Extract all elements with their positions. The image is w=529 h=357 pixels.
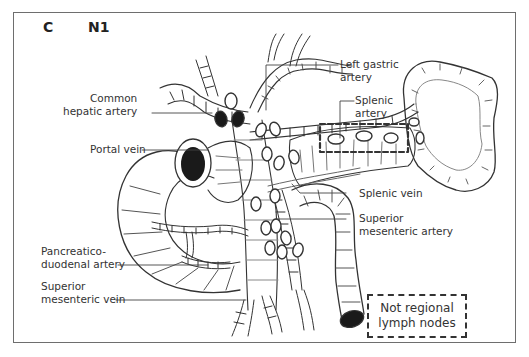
involved-lymph-nodes bbox=[213, 110, 246, 129]
duodenum bbox=[118, 139, 253, 293]
spleen bbox=[403, 61, 497, 191]
label-splenic-artery: Splenic artery bbox=[355, 94, 393, 120]
portal-vein bbox=[232, 120, 278, 310]
legend-not-regional-lymph-nodes: Not regional lymph nodes bbox=[367, 294, 467, 338]
lower-branches bbox=[232, 296, 282, 336]
label-superior-mesenteric-artery: Superior mesenteric artery bbox=[359, 212, 453, 238]
label-superior-mesenteric-vein: Superior mesenteric vein bbox=[41, 280, 125, 306]
label-left-gastric-artery: Left gastric artery bbox=[340, 58, 399, 84]
left-gastric-artery bbox=[250, 34, 352, 112]
label-common-hepatic-artery: Common hepatic artery bbox=[63, 92, 137, 118]
label-splenic-vein: Splenic vein bbox=[359, 187, 423, 200]
jejunum bbox=[292, 184, 366, 330]
pancreaticoduodenal-artery bbox=[152, 222, 248, 269]
label-pancreaticoduodenal-artery: Pancreatico- duodenal artery bbox=[41, 245, 125, 271]
label-portal-vein: Portal vein bbox=[90, 143, 146, 156]
